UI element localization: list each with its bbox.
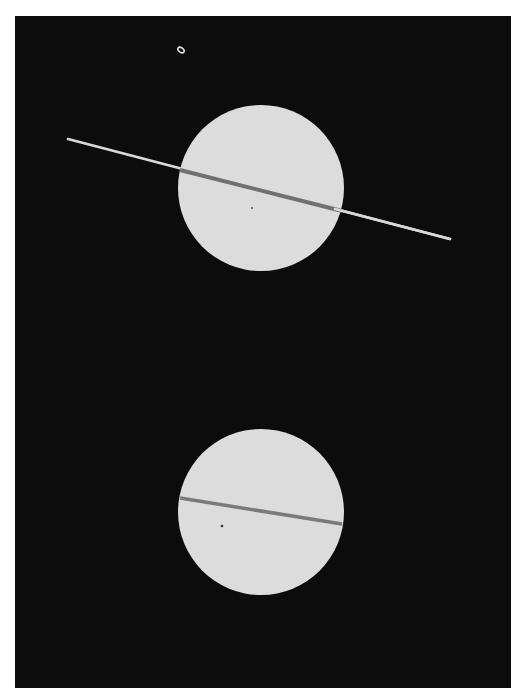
planet-upper bbox=[178, 105, 344, 271]
ring-front-upper bbox=[335, 209, 450, 239]
moon bbox=[177, 46, 185, 54]
astronomical-photo bbox=[0, 0, 527, 698]
spot-lower bbox=[221, 525, 224, 528]
spot-upper bbox=[251, 207, 253, 209]
